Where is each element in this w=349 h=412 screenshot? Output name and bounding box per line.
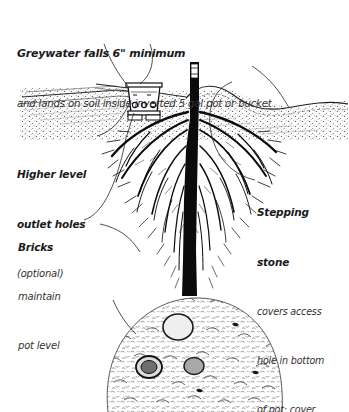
leader-bricks-2 — [100, 224, 140, 252]
bricks-line3: pot level — [18, 340, 61, 352]
higher-level-line1: Higher level — [17, 168, 86, 180]
stepping-stone-callout: Stepping stone covers access hole in bot… — [257, 168, 349, 412]
stepping-stone-line1: Stepping — [257, 206, 349, 218]
greywater-callout: Greywater falls 6" minimum and lands on … — [17, 10, 272, 148]
stepping-stone-body3: of pot; cover — [257, 404, 349, 412]
greywater-body: and lands on soil inside inverted 5 gal … — [17, 98, 272, 110]
bricks-line1: Bricks — [18, 241, 61, 253]
diagram-canvas: Greywater falls 6" minimum and lands on … — [0, 0, 349, 412]
bricks-line2: maintain — [18, 291, 61, 303]
stepping-stone-body2: hole in bottom — [257, 355, 349, 366]
stepping-stone-body1: covers access — [257, 306, 349, 317]
stepping-stone-line2: stone — [257, 256, 349, 268]
bricks-callout: Bricks maintain pot level — [18, 203, 61, 390]
greywater-heading: Greywater falls 6" minimum — [17, 48, 272, 61]
